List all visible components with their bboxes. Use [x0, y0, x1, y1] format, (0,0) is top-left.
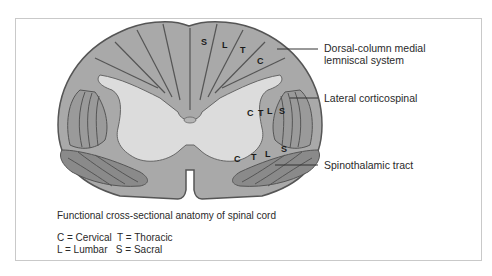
spino-seg-s: S	[281, 144, 287, 154]
spino-seg-t: T	[251, 152, 257, 162]
spino-seg-l: L	[265, 149, 271, 159]
dorsal-seg-t: T	[240, 45, 246, 55]
label-lateral-corticospinal: Lateral corticospinal	[324, 92, 417, 104]
lateral-seg-l: L	[267, 106, 273, 116]
central-canal	[184, 117, 196, 123]
spino-seg-c: C	[234, 154, 241, 164]
lateral-seg-c: C	[247, 108, 254, 118]
label-dorsal-line2: lemniscal system	[324, 54, 426, 66]
legend-line1: C = Cervical T = Thoracic	[57, 232, 173, 244]
lateral-seg-s: S	[279, 106, 285, 116]
lateral-seg-t: T	[258, 108, 264, 118]
label-spinothalamic: Spinothalamic tract	[324, 159, 413, 171]
dorsal-seg-l: L	[222, 40, 228, 50]
segment-legend: C = Cervical T = Thoracic L = Lumbar S =…	[57, 232, 173, 256]
legend-line2: L = Lumbar S = Sacral	[57, 244, 173, 256]
dorsal-seg-c: C	[257, 56, 264, 66]
label-dorsal-line1: Dorsal-column medial	[324, 42, 426, 54]
label-dorsal-column: Dorsal-column medial lemniscal system	[324, 42, 426, 66]
figure-caption: Functional cross-sectional anatomy of sp…	[57, 210, 276, 221]
dorsal-seg-s: S	[201, 37, 207, 47]
